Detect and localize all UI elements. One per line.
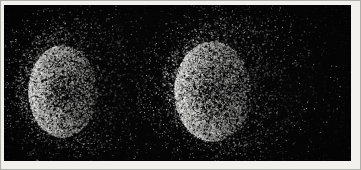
speckle-scatter-canvas [4,5,351,161]
black-plate [4,5,351,161]
figure-root: Two grainy speckled luminous blobs on a … [0,0,361,170]
